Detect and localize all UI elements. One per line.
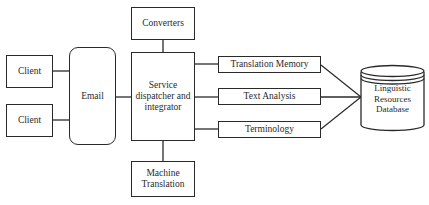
linguistic-resources-database-label: Linguistic Resources Database [361, 83, 424, 115]
dispatcher-label-line3: integrator [145, 102, 182, 113]
dispatcher-label-line1: Service [149, 80, 178, 91]
mt-label-line2: Translation [142, 179, 185, 190]
machine-translation-node: Machine Translation [131, 161, 195, 197]
db-label-line1: Linguistic [361, 83, 424, 94]
email-node: Email [69, 47, 116, 145]
terminology-label: Terminology [245, 124, 294, 135]
edge-tm-db [321, 65, 361, 97]
text-analysis-node: Text Analysis [218, 88, 321, 105]
client-label: Client [18, 115, 41, 126]
translation-memory-label: Translation Memory [230, 59, 308, 70]
translation-memory-node: Translation Memory [218, 56, 321, 73]
email-label: Email [81, 91, 104, 102]
client-node-2: Client [6, 104, 53, 137]
text-analysis-label: Text Analysis [244, 91, 296, 102]
dispatcher-label-line2: dispatcher and [135, 91, 190, 102]
converters-node: Converters [131, 7, 195, 40]
client-node-1: Client [6, 55, 53, 88]
client-label: Client [18, 66, 41, 77]
db-label-line2: Resources [361, 94, 424, 105]
service-dispatcher-node: Service dispatcher and integrator [131, 52, 195, 141]
converters-label: Converters [142, 18, 184, 29]
mt-label-line1: Machine [146, 168, 179, 179]
terminology-node: Terminology [218, 121, 321, 138]
edge-term-db [321, 97, 361, 129]
db-label-line3: Database [361, 104, 424, 115]
